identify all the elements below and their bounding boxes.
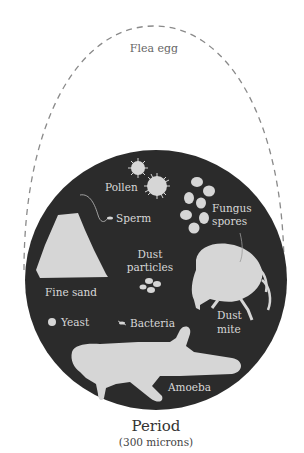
amoeba-label: Amoeba [167,381,211,393]
bacteria-label: Bacteria [130,317,175,329]
fine-sand-label: Fine sand [45,286,97,298]
sperm-label: Sperm [116,212,151,224]
diagram-title: Period [132,417,181,435]
flea-egg-label: Flea egg [130,42,178,55]
yeast-label: Yeast [60,316,90,328]
pollen-label: Pollen [105,181,138,193]
dust-particles-label-line2: particles [127,261,173,273]
size-comparison-diagram: Flea egg Pollen Fungus spores Sperm [0,0,304,453]
fungus-spores-label-line2: spores [212,215,247,227]
dust-particles-label-line1: Dust [138,248,164,260]
fungus-spores-label-line1: Fungus [212,202,252,214]
dust-mite-label-line1: Dust [217,309,243,321]
yeast-icon [48,318,56,326]
diagram-subtitle: (300 microns) [119,436,193,448]
dust-mite-label-line2: mite [217,323,241,335]
